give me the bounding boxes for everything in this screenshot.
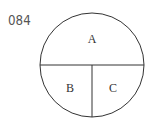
region-label-c: C	[109, 81, 117, 95]
region-label-b: B	[66, 81, 74, 95]
region-label-a: A	[88, 32, 97, 46]
circle-diagram: A B C	[0, 0, 158, 129]
